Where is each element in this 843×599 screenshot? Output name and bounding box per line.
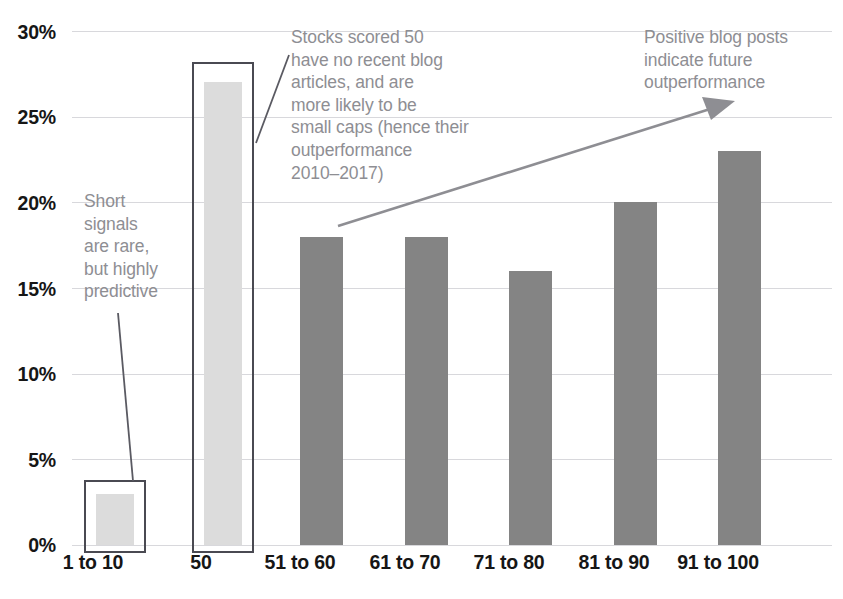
y-axis-tick-15: 15% (4, 278, 56, 301)
bar-71-to-80 (509, 271, 552, 545)
y-axis-tick-20: 20% (4, 192, 56, 215)
annotation-stocks-scored-50: Stocks scored 50 have no recent blog art… (291, 26, 469, 184)
bar-91-to-100 (718, 151, 761, 545)
y-axis-tick-5: 5% (4, 449, 56, 472)
y-axis-tick-25: 25% (4, 106, 56, 129)
bar-81-to-90 (614, 202, 657, 545)
annotation-positive-blog-posts: Positive blog posts indicate future outp… (644, 26, 788, 94)
y-axis-tick-30: 30% (4, 21, 56, 44)
gridline-0 (72, 545, 832, 546)
bar-61-to-70 (405, 237, 448, 545)
highlight-box-50 (192, 62, 254, 553)
bar-51-to-60 (300, 237, 343, 545)
y-axis-tick-10: 10% (4, 363, 56, 386)
annotation-short-signals: Short signals are rare, but highly predi… (84, 190, 158, 303)
bar-chart: 30% 25% 20% 15% 10% 5% 0% 1 to 10 50 51 … (0, 0, 843, 599)
x-axis-tick-91-to-100: 91 to 100 (643, 551, 793, 574)
highlight-box-1-to-10 (84, 480, 146, 553)
